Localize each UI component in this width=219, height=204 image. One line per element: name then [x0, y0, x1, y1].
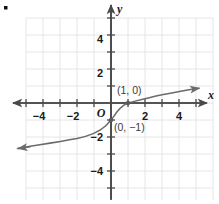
y-tick-label-2: 2	[97, 67, 103, 79]
y-tick-label-4: 4	[97, 33, 104, 45]
origin-label: O	[97, 106, 106, 120]
x-tick-label-4: 4	[176, 110, 183, 122]
point-label-0-neg1: (0, −1)	[114, 121, 145, 133]
x-tick-label-neg4: −4	[33, 110, 46, 122]
coordinate-plane-svg: −4 −2 2 4 4 2 −2 −4 y x O (1, 0) (0, −1)	[0, 0, 219, 204]
x-axis-label: x	[207, 88, 214, 102]
y-axis-label: y	[115, 2, 123, 16]
point-marker-0-neg1	[109, 118, 113, 122]
x-tick-label-neg2: −2	[67, 110, 80, 122]
point-label-1-0: (1, 0)	[117, 84, 142, 96]
point-marker-1-0	[126, 101, 130, 105]
y-tick-label-neg4: −4	[90, 165, 103, 177]
corner-dot-artifact	[4, 6, 8, 10]
figure-background	[0, 0, 219, 204]
graph-figure: −4 −2 2 4 4 2 −2 −4 y x O (1, 0) (0, −1)	[0, 0, 219, 204]
y-tick-label-neg2: −2	[90, 131, 103, 143]
